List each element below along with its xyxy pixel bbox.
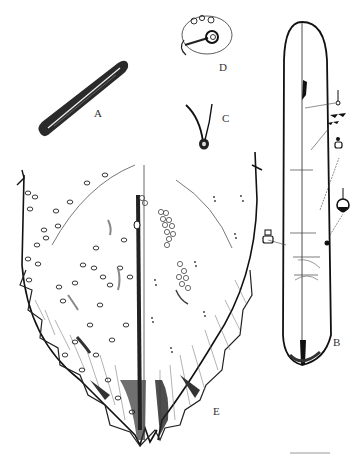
illustration-svg [0, 0, 361, 459]
panel-a-rod [38, 61, 128, 136]
label-c: C [222, 113, 229, 124]
label-e: E [213, 406, 220, 417]
caption-marks [290, 452, 330, 454]
label-b: B [333, 337, 340, 348]
panel-e-pygidium [17, 152, 262, 446]
panel-b-body [263, 22, 349, 365]
panel-c-seta [186, 104, 212, 150]
label-a: A [94, 108, 102, 119]
panel-d-pore [181, 15, 232, 55]
label-d: D [219, 62, 227, 73]
